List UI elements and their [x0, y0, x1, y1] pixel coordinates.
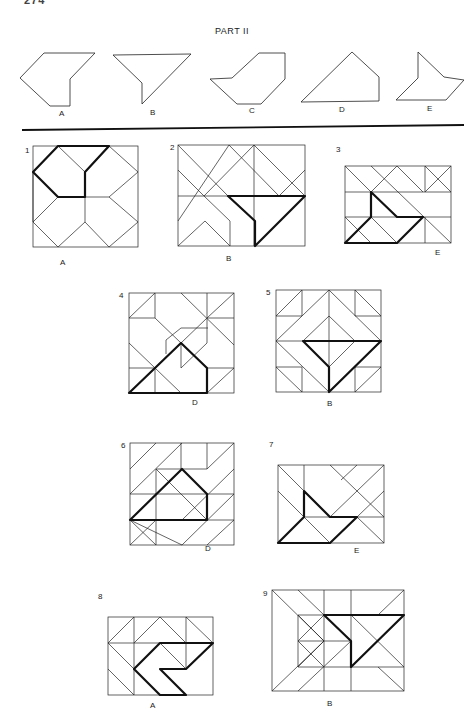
- bold-shape-2: [228, 196, 305, 246]
- answer-label-4: D: [192, 398, 198, 407]
- problem-number-6: 6: [121, 441, 125, 450]
- answer-label-2: B: [226, 254, 231, 263]
- option-label-d: D: [339, 105, 345, 114]
- problem-number-9: 9: [263, 589, 267, 598]
- answer-label-3: E: [435, 248, 440, 257]
- problem-number-2: 2: [170, 143, 174, 152]
- figure-9: [272, 590, 404, 691]
- bold-shape-8: [134, 643, 213, 695]
- option-label-e: E: [427, 104, 432, 113]
- problem-number-8: 8: [98, 592, 102, 601]
- option-shape-b: [113, 54, 191, 104]
- answer-label-9: B: [327, 699, 332, 708]
- problem-number-7: 7: [269, 440, 273, 449]
- bold-shape-6: [130, 469, 207, 520]
- problem-number-3: 3: [336, 145, 340, 154]
- figure-7: [278, 465, 384, 543]
- figure-6: [130, 443, 234, 545]
- bold-shape-1: [33, 146, 109, 197]
- divider: [22, 125, 464, 130]
- bold-shape-5: [303, 341, 381, 392]
- option-label-c: C: [249, 106, 255, 115]
- option-shape-e: [396, 52, 464, 100]
- problem-number-1: 1: [25, 146, 29, 155]
- option-label-a: A: [59, 109, 64, 118]
- option-shape-d: [301, 52, 379, 102]
- problem-number-5: 5: [266, 288, 270, 297]
- option-shape-a: [20, 53, 95, 106]
- answer-label-6: D: [205, 544, 211, 553]
- problem-number-4: 4: [119, 291, 123, 300]
- answer-label-5: B: [327, 399, 332, 408]
- bold-shape-3: [345, 192, 423, 243]
- option-shape-c: [210, 53, 285, 104]
- answer-label-8: A: [150, 701, 155, 710]
- figure-8: [108, 617, 213, 695]
- answer-label-7: E: [354, 546, 359, 555]
- option-label-b: B: [150, 108, 155, 117]
- figure-3: [345, 166, 451, 243]
- figures-canvas: [0, 0, 464, 720]
- answer-label-1: A: [60, 258, 65, 267]
